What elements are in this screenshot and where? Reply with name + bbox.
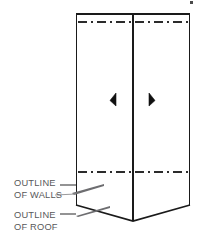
outline-of-walls-line2: OF WALLS (14, 190, 62, 200)
door-marker-right (149, 93, 155, 106)
leader-roof-arrow (76, 206, 110, 217)
technical-drawing-svg: OUTLINE OF WALLS OUTLINE OF ROOF (0, 0, 200, 246)
outline-of-roof-line2: OF ROOF (14, 222, 58, 232)
registration-mark-icon (190, 1, 193, 4)
outline-of-roof-line1: OUTLINE (14, 210, 56, 220)
annotation-labels-group: OUTLINE OF WALLS OUTLINE OF ROOF (14, 178, 62, 232)
leader-walls-group (55, 184, 104, 195)
wall-volume-group (76, 14, 190, 221)
door-marker-left (110, 93, 116, 106)
drawing-canvas: OUTLINE OF WALLS OUTLINE OF ROOF (0, 0, 200, 246)
outline-of-walls-line1: OUTLINE (14, 178, 56, 188)
